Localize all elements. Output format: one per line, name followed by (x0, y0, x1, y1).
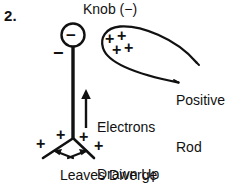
rod-charge-sign-4: + (124, 40, 133, 56)
rod-label: Positive Rod (176, 62, 225, 187)
leaf-charge-sign-4: + (94, 138, 103, 154)
rod-charge-sign-3: + (112, 42, 121, 58)
stem-charge-sign: − (53, 44, 64, 62)
leaf-charge-sign-3: + (36, 136, 45, 152)
rod-label-line-1: Positive (176, 93, 225, 109)
knob-label: Knob (−) (83, 2, 137, 18)
electron-flow-arrow (81, 89, 91, 128)
leaf-divergence-arrow-right (68, 149, 88, 158)
knob-charge-sign: − (66, 27, 76, 44)
item-number: 2. (4, 8, 17, 25)
electroscope-figure: 2. Knob (−) Positive Rod Electrons Drawn… (0, 0, 241, 194)
leaf-charge-sign-1: + (56, 127, 65, 143)
leaves-diverge-label: Leaves Diverge (60, 168, 157, 184)
rod-label-line-2: Rod (176, 140, 225, 156)
electrons-label-line-1: Electrons (97, 120, 159, 136)
leaf-charge-sign-2: + (79, 129, 88, 145)
